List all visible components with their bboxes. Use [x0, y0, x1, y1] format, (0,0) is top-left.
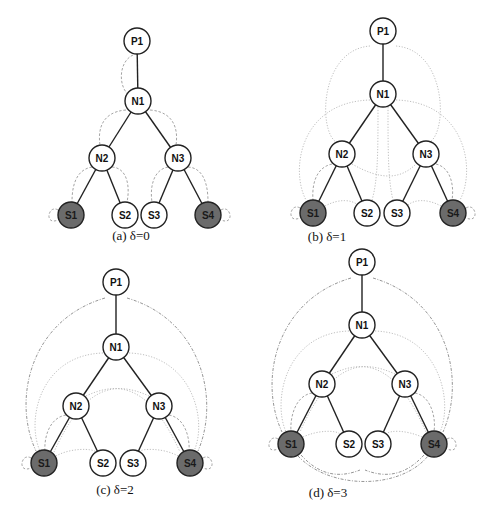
node-s2: S2 — [90, 450, 116, 476]
node-s3: S3 — [120, 450, 146, 476]
tree-edges — [291, 262, 434, 444]
node-s2: S2 — [112, 202, 138, 228]
node-label: S4 — [202, 210, 215, 221]
node-label: S4 — [428, 439, 441, 450]
node-label: P1 — [377, 26, 390, 37]
panel-caption: (a) δ=0 — [112, 228, 150, 243]
panel-caption: (c) δ=2 — [96, 482, 134, 497]
dependency-edge — [373, 278, 452, 432]
dependency-edge — [365, 455, 424, 474]
node-p1: P1 — [124, 28, 150, 54]
node-s4: S4 — [421, 431, 447, 457]
node-s4: S4 — [177, 450, 203, 476]
node-label: S2 — [343, 439, 356, 450]
node-s3: S3 — [384, 200, 410, 226]
node-n1: N1 — [349, 312, 375, 338]
node-n2: N2 — [329, 141, 355, 167]
node-n1: N1 — [370, 81, 396, 107]
node-label: S4 — [447, 208, 460, 219]
node-label: N3 — [399, 379, 412, 390]
node-label: N1 — [132, 96, 145, 107]
dependency-edge — [408, 201, 441, 206]
node-s2: S2 — [336, 431, 362, 457]
dependency-edge — [203, 457, 212, 469]
panel-a: P1N1N2N3S1S2S3S4(a) δ=0 — [49, 28, 230, 243]
node-label: S2 — [361, 208, 374, 219]
dependency-edge — [325, 201, 358, 206]
node-label: N2 — [70, 401, 83, 412]
node-label: S1 — [38, 458, 51, 469]
panel-b: P1N1N2N3S1S2S3S4(b) δ=1 — [291, 18, 475, 244]
dependency-edge — [396, 46, 440, 142]
node-n3: N3 — [146, 393, 172, 419]
node-label: N3 — [172, 153, 185, 164]
panel-c: P1N1N2N3S1S2S3S4(c) δ=2 — [22, 269, 212, 497]
tree-edges — [313, 31, 453, 213]
node-label: N1 — [110, 342, 123, 353]
node-label: S1 — [307, 208, 320, 219]
dependency-edge — [386, 431, 422, 437]
dependency-edge — [112, 167, 128, 202]
node-s1: S1 — [58, 202, 84, 228]
node-label: P1 — [131, 36, 144, 47]
node-label: S3 — [372, 439, 385, 450]
dependency-edge — [269, 438, 278, 450]
node-s4: S4 — [195, 202, 221, 228]
dependency-edge — [447, 438, 456, 450]
node-label: S2 — [97, 458, 110, 469]
dependency-edge — [303, 431, 340, 437]
dependency-edge — [72, 167, 92, 202]
tree-edges — [44, 282, 190, 463]
node-label: S2 — [119, 210, 132, 221]
delta-tree-figure: P1N1N2N3S1S2S3S4(a) δ=0 P1N1N2N3S1S2S3S4… — [0, 0, 502, 521]
node-label: N3 — [420, 149, 433, 160]
node-label: N1 — [356, 320, 369, 331]
node-label: P1 — [110, 277, 123, 288]
node-s2: S2 — [354, 200, 380, 226]
dependency-edges — [22, 298, 212, 469]
dependency-edge — [45, 415, 66, 451]
node-s3: S3 — [141, 202, 167, 228]
dependency-edge — [49, 209, 58, 221]
dependency-edge — [127, 298, 207, 451]
panel-caption: (b) δ=1 — [308, 229, 346, 244]
dependency-edge — [150, 110, 177, 145]
node-n1: N1 — [103, 334, 129, 360]
node-n2: N2 — [89, 145, 115, 171]
node-n1: N1 — [125, 88, 151, 114]
node-n2: N2 — [309, 371, 335, 397]
node-p1: P1 — [370, 18, 396, 44]
node-label: S3 — [148, 210, 161, 221]
dependency-edge — [466, 207, 475, 219]
node-s1: S1 — [278, 431, 304, 457]
node-p1: P1 — [103, 269, 129, 295]
node-s1: S1 — [31, 450, 57, 476]
node-s1: S1 — [300, 200, 326, 226]
node-label: S3 — [391, 208, 404, 219]
dependency-edge — [26, 298, 105, 451]
node-label: S3 — [127, 458, 140, 469]
dependency-edge — [291, 207, 300, 219]
node-label: N3 — [153, 401, 166, 412]
dependency-edge — [169, 415, 189, 451]
node-s4: S4 — [440, 200, 466, 226]
node-label: N2 — [336, 149, 349, 160]
node-n3: N3 — [165, 145, 191, 171]
dependency-edge — [56, 449, 96, 456]
dependency-edge — [151, 167, 168, 202]
dependency-edges — [49, 55, 230, 221]
node-n3: N3 — [392, 371, 418, 397]
dependency-edge — [301, 455, 360, 474]
dependency-edge — [272, 278, 351, 432]
dependency-edge — [388, 107, 393, 200]
panel-d: P1N1N2N3S1S2S3S4(d) δ=3 — [269, 249, 456, 500]
node-n2: N2 — [63, 393, 89, 419]
panel-caption: (d) δ=3 — [309, 485, 347, 500]
node-p1: P1 — [349, 249, 375, 275]
node-label: P1 — [356, 257, 369, 268]
dependency-edge — [372, 107, 378, 200]
dependency-edge — [221, 209, 230, 221]
dependency-edge — [326, 46, 370, 142]
node-label: N2 — [96, 153, 109, 164]
tree-edges — [71, 41, 208, 215]
